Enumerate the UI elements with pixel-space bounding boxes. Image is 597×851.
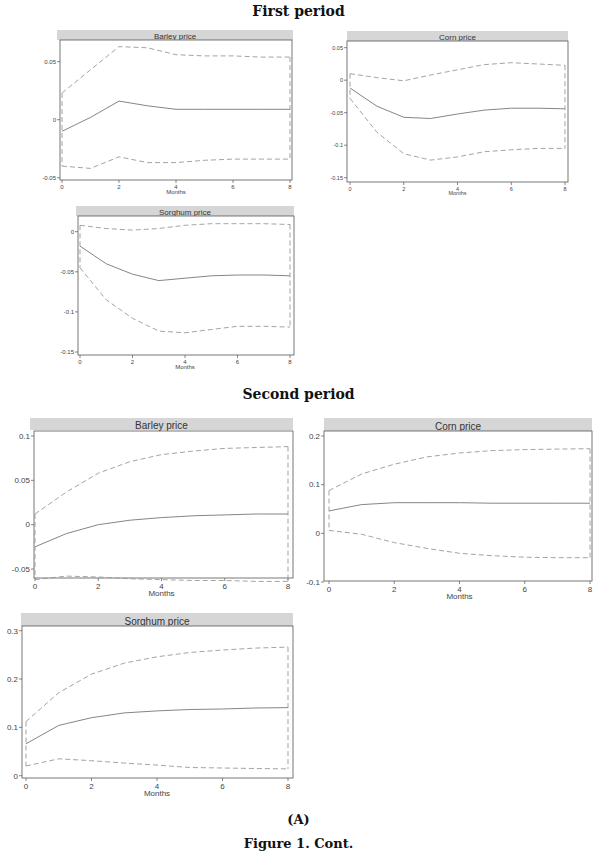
y-tick-label: -0.05 (60, 269, 74, 275)
y-tick-label: -0.1 (334, 142, 343, 148)
x-tick-label: 8 (288, 359, 292, 365)
y-tick-label: 0 (26, 520, 31, 529)
panel-title: Corn price (435, 421, 482, 432)
panel-title: Sorghum price (159, 208, 212, 217)
x-tick-label: 8 (288, 184, 292, 190)
x-tick-label: 8 (588, 585, 593, 594)
x-tick-label: 0 (78, 359, 82, 365)
y-tick-label: -0.1 (64, 309, 75, 315)
x-tick-label: 0 (348, 186, 351, 192)
plot-area (22, 626, 293, 778)
y-tick-label: 0 (340, 77, 343, 83)
chart-panel-second-sorghum-price: Sorghum price00.10.20.302468Months (7, 613, 293, 798)
plot-area (60, 40, 292, 180)
x-tick-label: 6 (510, 186, 513, 192)
x-tick-label: 8 (563, 186, 566, 192)
x-axis-label: Months (446, 592, 472, 601)
y-tick-label: -0.05 (12, 565, 31, 574)
x-tick-label: 6 (523, 585, 528, 594)
x-tick-label: 8 (286, 782, 291, 791)
y-tick-label: -0.15 (330, 175, 343, 181)
x-tick-label: 2 (117, 184, 121, 190)
x-tick-label: 2 (131, 359, 135, 365)
x-tick-label: 6 (231, 184, 235, 190)
x-tick-label: 6 (223, 582, 228, 591)
x-tick-label: 2 (392, 585, 397, 594)
y-tick-label: 0 (71, 229, 75, 235)
panel-title: Sorghum price (124, 616, 189, 627)
x-tick-label: 2 (402, 186, 405, 192)
y-tick-label: -0.05 (330, 110, 343, 116)
panel-title: Barley price (154, 32, 197, 41)
x-axis-label: Months (448, 190, 466, 196)
y-tick-label: 0.1 (19, 432, 31, 441)
y-tick-label: 0 (14, 772, 19, 781)
y-tick-label: -0.15 (60, 349, 74, 355)
plot-area (34, 431, 293, 578)
y-tick-label: 0.1 (7, 723, 19, 732)
x-tick-label: 8 (286, 582, 291, 591)
y-tick-label: 0.05 (332, 45, 343, 51)
plot-area (347, 41, 568, 182)
chart-panel-first-barley-price: Barley price-0.0500.0502468Months (42, 30, 293, 195)
chart-panel-first-corn-price: Corn price-0.15-0.1-0.0500.0502468Months (330, 31, 568, 196)
plot-area (324, 431, 592, 581)
figure-caption: Figure 1. Cont. (0, 836, 597, 851)
y-tick-label: 0.05 (14, 476, 30, 485)
x-axis-label: Months (166, 189, 186, 195)
y-tick-label: 0 (53, 117, 57, 123)
x-tick-label: 0 (33, 582, 38, 591)
x-tick-label: 0 (60, 184, 64, 190)
x-tick-label: 6 (220, 782, 225, 791)
panel-title: Corn price (439, 33, 476, 42)
panel-title: Barley price (135, 420, 188, 431)
x-tick-label: 0 (24, 782, 29, 791)
x-axis-label: Months (148, 589, 174, 598)
x-tick-label: 6 (236, 359, 240, 365)
y-tick-label: 0 (316, 529, 321, 538)
chart-panel-second-corn-price: Corn price-0.100.10.202468Months (306, 418, 593, 601)
x-axis-label: Months (175, 364, 195, 370)
panel-label: (A) (0, 812, 597, 827)
chart-panel-second-barley-price: Barley price-0.0500.050.102468Months (12, 418, 293, 598)
x-tick-label: 2 (89, 782, 94, 791)
y-tick-label: -0.05 (42, 175, 56, 181)
chart-panel-first-sorghum-price: Sorghum price-0.15-0.1-0.05002468Months (60, 206, 294, 370)
y-tick-label: 0.3 (7, 627, 19, 636)
y-tick-label: 0.2 (7, 675, 19, 684)
y-tick-label: 0.05 (44, 59, 56, 65)
x-tick-label: 0 (327, 585, 332, 594)
y-tick-label: -0.1 (306, 578, 320, 587)
y-tick-label: 0.1 (309, 480, 321, 489)
x-axis-label: Months (144, 789, 170, 798)
plot-area (78, 216, 294, 355)
x-tick-label: 2 (96, 582, 101, 591)
y-tick-label: 0.2 (309, 432, 321, 441)
